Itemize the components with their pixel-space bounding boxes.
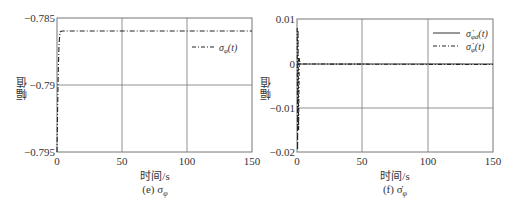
ytick-f-0: 0.01 bbox=[276, 13, 295, 25]
xtick-f-0: 0 bbox=[294, 155, 300, 167]
xtick-f-1: 50 bbox=[357, 155, 369, 167]
xtick-f-2: 100 bbox=[420, 155, 437, 167]
ytick-f-3: −0.02 bbox=[270, 146, 295, 158]
xtick-f-3: 150 bbox=[485, 155, 502, 167]
y-axis-label-f: 幅值 bbox=[258, 76, 274, 100]
svg-text:σ̇φ(t): σ̇φ(t) bbox=[466, 41, 485, 54]
ytick-f-1: 0 bbox=[290, 58, 296, 70]
svg-text:σ̇φd(t): σ̇φd(t) bbox=[466, 28, 488, 41]
caption-f: (f) σ̇φ bbox=[295, 183, 495, 198]
x-axis-label-f: 时间/s bbox=[295, 167, 495, 183]
chart-panel-f: 0.01 0 −0.01 −0.02 0 50 100 150 σ̇φd(t) … bbox=[0, 0, 515, 203]
ytick-f-2: −0.01 bbox=[270, 102, 295, 114]
legend-f: σ̇φd(t) σ̇φ(t) bbox=[433, 28, 488, 54]
